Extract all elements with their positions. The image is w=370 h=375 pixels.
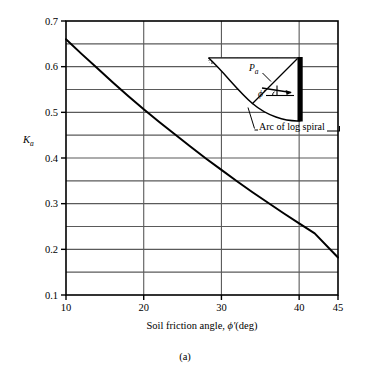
x-tick-label: 45 <box>333 302 344 313</box>
y-tick-label: 0.3 <box>45 198 58 209</box>
y-tick-label: 0.6 <box>45 61 58 72</box>
figure-caption: (a) <box>179 351 191 363</box>
y-tick-label: 0.1 <box>45 290 58 301</box>
x-tick-label: 30 <box>216 302 227 313</box>
retaining-wall <box>298 57 303 122</box>
y-tick-label: 0.7 <box>45 16 58 27</box>
figure-container: 0.70.60.50.40.30.20.1 1020304045 <box>0 0 370 375</box>
x-tick-label: 20 <box>138 302 149 313</box>
phi-label: ϕ′ <box>258 89 266 99</box>
y-tick-label: 0.5 <box>45 107 58 118</box>
stipple-dot <box>211 63 212 64</box>
x-axis-title: Soil friction angle, ϕ′(deg) <box>147 320 258 332</box>
stipple-dot <box>208 60 209 61</box>
chart-svg: 0.70.60.50.40.30.20.1 1020304045 <box>0 0 370 375</box>
x-tick-label: 10 <box>61 302 72 313</box>
arc-of-log-spiral-label: Arc of log spiral <box>259 121 325 132</box>
y-tick-label: 0.4 <box>45 153 59 164</box>
x-tick-label: 40 <box>294 302 305 313</box>
y-tick-label: 0.2 <box>45 244 58 255</box>
stipple-dot <box>209 62 210 63</box>
figure-background <box>0 0 370 375</box>
